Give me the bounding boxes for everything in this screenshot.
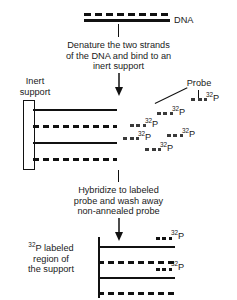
bottom-strand-4 bbox=[98, 292, 175, 295]
probe-fragment-2-isotope: 32P bbox=[172, 108, 185, 117]
isotope-element: P bbox=[167, 143, 173, 153]
probe-fragment-5-isotope: 32P bbox=[182, 130, 195, 139]
probe-fragment-2 bbox=[157, 112, 173, 115]
dna-top-strand bbox=[84, 13, 170, 16]
bottom-label-line-2: region of bbox=[6, 254, 96, 265]
bottom-strand-3 bbox=[98, 277, 175, 279]
probe-fragment-1 bbox=[191, 98, 207, 101]
step1-caption: Denature the two strands of the DNA and … bbox=[0, 40, 237, 72]
isotope-element: P bbox=[178, 231, 184, 241]
support-strand-3 bbox=[33, 142, 117, 144]
arrow-step2 bbox=[112, 218, 126, 242]
dna-bottom-strand bbox=[84, 18, 170, 22]
step2-line-3: non-annealed probe bbox=[0, 206, 237, 217]
inert-support-line-2: support bbox=[2, 87, 68, 98]
step1-line-1: Denature the two strands bbox=[0, 40, 237, 51]
bottom-fragment-2-isotope: 32P bbox=[171, 263, 184, 272]
bottom-strand-1 bbox=[98, 246, 175, 248]
step1-line-3: inert support bbox=[0, 61, 237, 72]
probe-pointer-diagonal bbox=[155, 87, 188, 104]
support-strand-4 bbox=[33, 158, 117, 161]
arrow-step1 bbox=[112, 73, 126, 97]
isotope-element: P bbox=[152, 119, 158, 129]
connector-dna-to-step1 bbox=[118, 24, 119, 37]
hybridization-diagram: DNA Denature the two strands of the DNA … bbox=[0, 0, 237, 300]
support-strand-1 bbox=[33, 109, 117, 111]
isotope-element: P bbox=[179, 107, 185, 117]
bottom-label-line-3: the support bbox=[6, 264, 96, 275]
step2-caption: Hybridize to labeled probe and wash away… bbox=[0, 185, 237, 217]
probe-fragment-6 bbox=[145, 148, 161, 151]
probe-fragment-1-isotope: 32P bbox=[206, 94, 219, 103]
isotope-element: P bbox=[145, 132, 151, 142]
step2-line-2: probe and wash away bbox=[0, 196, 237, 207]
bottom-fragment-1 bbox=[156, 237, 172, 240]
step2-line-1: Hybridize to labeled bbox=[0, 185, 237, 196]
probe-fragment-4 bbox=[123, 137, 139, 140]
connector-middle-to-step2 bbox=[118, 170, 119, 182]
bottom-label-line-1: 32P labeled bbox=[6, 243, 96, 254]
bottom-strand-2 bbox=[98, 261, 175, 264]
bottom-region-label: 32P labeled region of the support bbox=[6, 243, 96, 275]
bottom-label-word: labeled bbox=[44, 243, 74, 253]
isotope-element: P bbox=[35, 243, 41, 253]
probe-fragment-4-isotope: 32P bbox=[138, 133, 151, 142]
inert-support-line-1: Inert bbox=[2, 76, 68, 87]
probe-label: Probe bbox=[178, 78, 220, 89]
step1-line-2: of the DNA and bind to an bbox=[0, 51, 237, 62]
probe-fragment-3-isotope: 32P bbox=[145, 120, 158, 129]
support-strand-2 bbox=[33, 125, 117, 128]
inert-support-label: Inert support bbox=[2, 76, 68, 97]
isotope-element: P bbox=[213, 93, 219, 103]
bottom-fragment-2 bbox=[156, 268, 172, 271]
probe-fragment-5 bbox=[167, 134, 183, 137]
probe-fragment-3 bbox=[130, 124, 146, 127]
probe-fragment-6-isotope: 32P bbox=[160, 144, 173, 153]
dna-label: DNA bbox=[174, 15, 193, 26]
isotope-element: P bbox=[189, 129, 195, 139]
isotope-element: P bbox=[178, 262, 184, 272]
bottom-fragment-1-isotope: 32P bbox=[171, 232, 184, 241]
